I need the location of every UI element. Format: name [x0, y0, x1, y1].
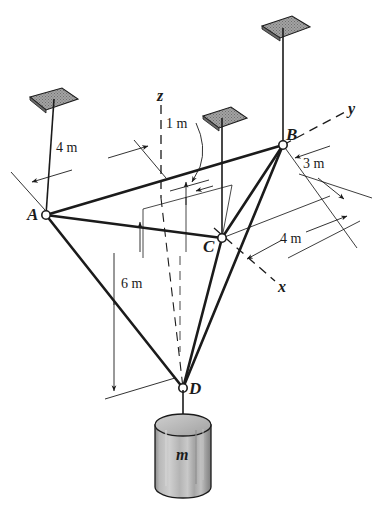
diagram-canvas — [0, 0, 376, 506]
axis-label-z: z — [157, 88, 163, 104]
dim-label-1m: 1 m — [166, 117, 187, 131]
mass-label: m — [176, 447, 188, 463]
construction-rail-upper-right — [299, 174, 372, 198]
axis-label-x: x — [278, 279, 286, 295]
dim-label-3m: 3 m — [303, 157, 324, 171]
cable-a-c — [46, 215, 222, 238]
point-label-c: C — [203, 238, 214, 255]
construction-line-inner-top — [143, 185, 232, 209]
dim-line-6m-base — [105, 378, 175, 399]
dim-arrow-3m-downright — [318, 178, 344, 199]
construction-rail-c-right — [222, 196, 330, 238]
plate-mid-surface — [203, 107, 247, 128]
dim-label-6m: 6 m — [121, 277, 142, 291]
hanger-rod-a — [46, 99, 54, 215]
cable-c-d — [183, 238, 222, 388]
point-label-b: B — [286, 126, 297, 143]
statics-figure: A B C D z y x 4 m 1 m 3 m 4 m 6 m m — [0, 0, 376, 506]
dim-arrow-1m-tip — [196, 186, 213, 191]
cable-a-d — [46, 215, 183, 388]
cable-a-b — [46, 145, 283, 215]
axis-label-y: y — [348, 101, 355, 117]
dim-label-4m-ab: 4 m — [56, 141, 77, 155]
dim-arrow-4mx-right — [306, 216, 347, 232]
cable-b-d — [183, 145, 283, 388]
dim-arrow-1m-down — [192, 167, 200, 182]
plate-right-surface — [262, 16, 310, 38]
dim-arrow-4m-left — [32, 170, 72, 182]
dim-label-4m-x: 4 m — [280, 232, 301, 246]
point-label-a: A — [27, 206, 38, 223]
dim-arrow-4mx-left — [247, 240, 282, 259]
ceiling-plate-right — [262, 16, 310, 41]
point-label-d: D — [189, 380, 201, 397]
dim-leader-1m — [196, 123, 203, 167]
joint-c — [218, 234, 226, 242]
joint-a — [42, 211, 50, 219]
